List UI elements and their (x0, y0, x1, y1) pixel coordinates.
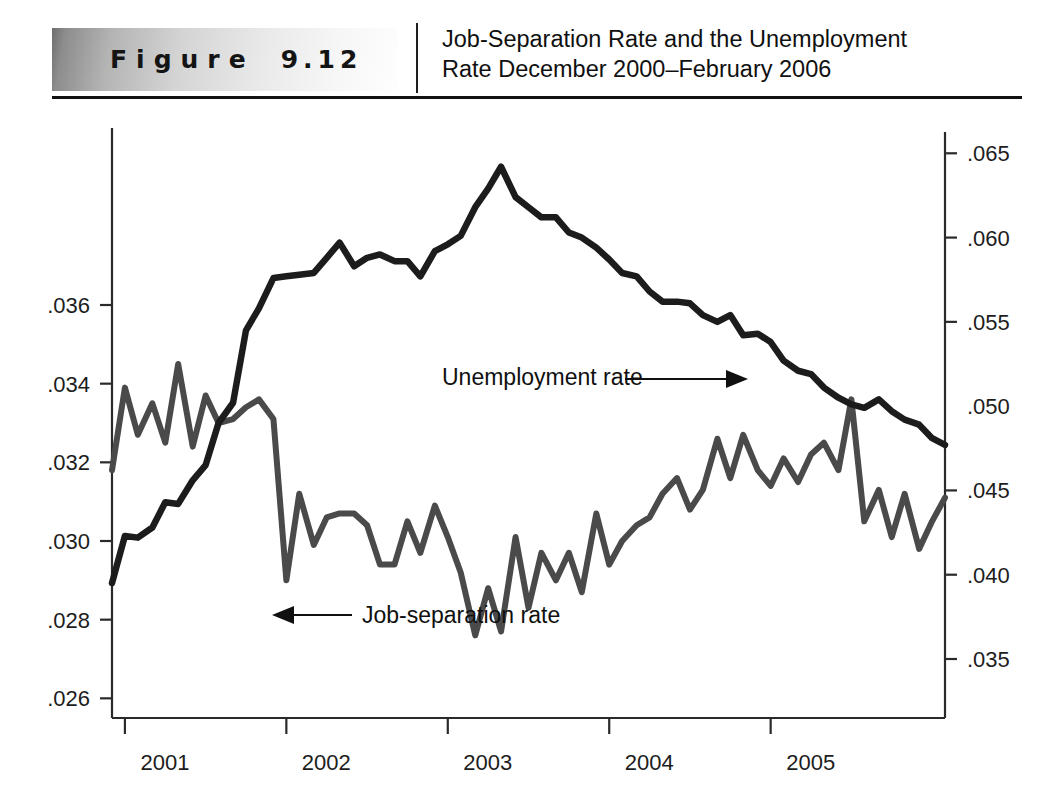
separation-annotation-arrow-head (272, 606, 294, 624)
right-axis-tick-label: .055 (967, 310, 1010, 335)
right-axis-tick-label: .045 (967, 478, 1010, 503)
unemployment-annotation-arrow-head (726, 370, 748, 388)
right-axis-tick-label: .035 (967, 647, 1010, 672)
series-line-job-separation-rate (112, 364, 945, 635)
left-axis-tick-label: .030 (47, 529, 90, 554)
left-axis-tick-label: .036 (47, 293, 90, 318)
x-axis-tick-label: 2004 (625, 750, 674, 775)
line-chart: .026.028.030.032.034.036 .035.040.045.05… (0, 100, 1062, 808)
left-axis-tick-label: .028 (47, 608, 90, 633)
chart-area: .026.028.030.032.034.036 .035.040.045.05… (0, 100, 1062, 808)
unemployment-annotation-label: Unemployment rate (442, 364, 643, 390)
plot-frame (112, 128, 945, 718)
x-axis-ticks: 20012002200320042005 (125, 718, 835, 775)
figure-title-line-1: Job-Separation Rate and the Unemployment (442, 24, 1042, 54)
figure-number-badge-inner: Figure 9.12 (52, 45, 397, 74)
header-vertical-divider (416, 23, 418, 93)
figure-title-line-2: Rate December 2000–February 2006 (442, 54, 1042, 84)
series-group (112, 167, 945, 636)
left-axis-tick-label: .032 (47, 450, 90, 475)
figure-header: Figure 9.12 Job-Separation Rate and the … (0, 0, 1062, 100)
right-axis-tick-label: .050 (967, 394, 1010, 419)
left-axis-tick-label: .026 (47, 686, 90, 711)
x-axis-tick-label: 2005 (786, 750, 835, 775)
right-axis-ticks: .035.040.045.050.055.060.065 (945, 141, 1010, 672)
figure-label: Figure (110, 45, 255, 74)
unemployment-annotation: Unemployment rate (442, 364, 748, 390)
x-axis-tick-label: 2001 (140, 750, 189, 775)
separation-annotation: Job-separation rate (272, 602, 560, 628)
left-axis-ticks: .026.028.030.032.034.036 (47, 293, 112, 711)
header-horizontal-rule (52, 96, 1022, 99)
x-axis-tick-label: 2003 (463, 750, 512, 775)
separation-annotation-label: Job-separation rate (362, 602, 560, 628)
x-axis-tick-label: 2002 (302, 750, 351, 775)
left-axis-tick-label: .034 (47, 372, 90, 397)
right-axis-tick-label: .065 (967, 141, 1010, 166)
right-axis-tick-label: .060 (967, 226, 1010, 251)
figure-number-badge: Figure 9.12 (52, 28, 397, 91)
figure-title: Job-Separation Rate and the Unemployment… (442, 24, 1042, 84)
figure-number: 9.12 (281, 45, 363, 74)
right-axis-tick-label: .040 (967, 563, 1010, 588)
